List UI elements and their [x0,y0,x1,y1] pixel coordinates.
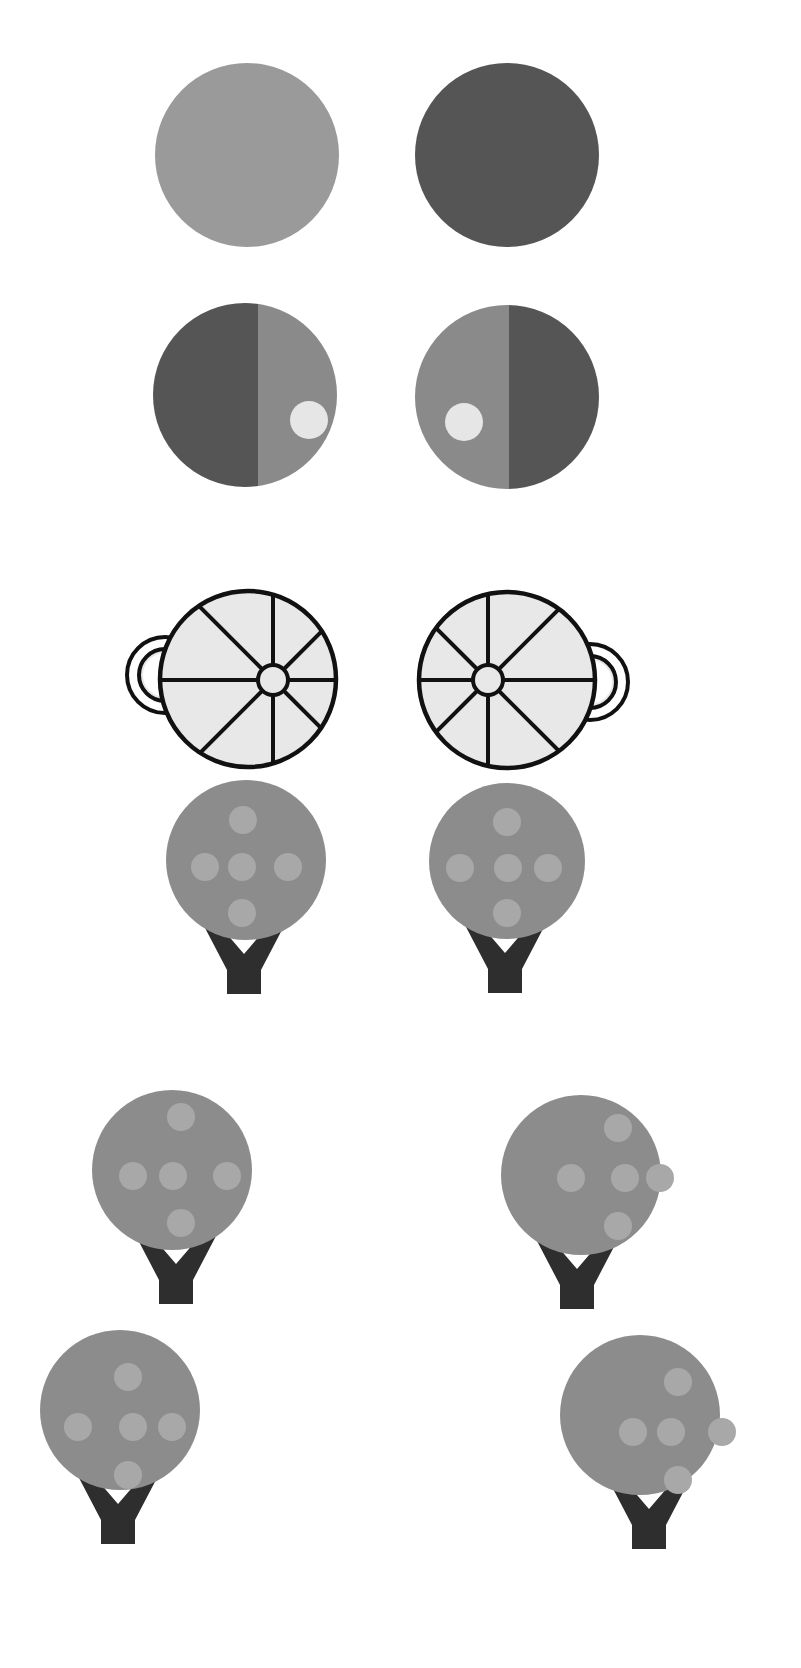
fruit-dot-icon [493,899,521,927]
fruit-dot-icon [158,1413,186,1441]
fruit-dot-icon [114,1363,142,1391]
fruit-dot-icon [191,853,219,881]
row-wheels [53,460,708,900]
row-trees-2 [92,1090,674,1309]
row-split-circles [151,301,601,491]
fruit-dot-icon [229,806,257,834]
solid-circle-left [155,63,339,247]
fruit-dot-icon [708,1418,736,1446]
fruit-dot-icon [228,853,256,881]
tree-left [92,1090,252,1304]
fruit-dot-icon [114,1461,142,1489]
fruit-dot-icon [64,1413,92,1441]
fruit-dot-icon [274,853,302,881]
dot-icon [290,401,328,439]
wheel-hub-icon [473,665,503,695]
fruit-dot-icon [167,1209,195,1237]
fruit-dot-icon [657,1418,685,1446]
dot-icon [445,403,483,441]
wheel-hub-icon [258,665,288,695]
fruit-dot-icon [119,1413,147,1441]
tree-right [501,1095,674,1309]
fruit-dot-icon [664,1466,692,1494]
fruit-dot-icon [611,1164,639,1192]
row-trees-3 [40,1330,736,1549]
tree-left [166,780,326,994]
fruit-dot-icon [213,1162,241,1190]
split-circle-icon [413,303,601,491]
fruit-dot-icon [493,808,521,836]
fruit-dot-icon [494,854,522,882]
fruit-dot-icon [604,1114,632,1142]
fruit-dot-icon [159,1162,187,1190]
puzzle-figure [0,0,801,1668]
tree-canopy-icon [560,1335,720,1495]
tree-right [560,1335,736,1549]
split-circle-right [413,303,601,491]
split-circle-left [151,301,339,489]
fruit-dot-icon [619,1418,647,1446]
right-half [509,303,601,491]
row-solid-circles [155,63,599,247]
fruit-dot-icon [119,1162,147,1190]
fruit-dot-icon [664,1368,692,1396]
fruit-dot-icon [646,1164,674,1192]
fruit-dot-icon [446,854,474,882]
right-half [258,301,339,489]
figure-canvas [0,0,801,1668]
left-half [151,301,258,489]
tree-left [40,1330,200,1544]
spoke [273,524,429,680]
fruit-dot-icon [228,899,256,927]
fruit-dot-icon [534,854,562,882]
fruit-dot-icon [167,1103,195,1131]
tree-right [429,783,585,993]
row-trees-1 [166,780,585,994]
solid-circle-icon [415,63,599,247]
split-circle-icon [151,301,339,489]
solid-circle-icon [155,63,339,247]
fruit-dot-icon [557,1164,585,1192]
left-half [413,303,509,491]
fruit-dot-icon [604,1212,632,1240]
solid-circle-right [415,63,599,247]
